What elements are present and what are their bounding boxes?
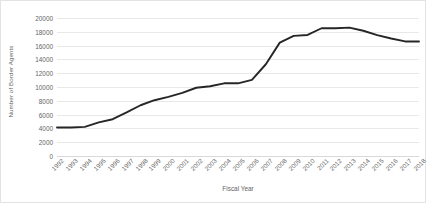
plot-area [57, 18, 419, 156]
x-tick-label: 2012 [329, 157, 344, 172]
y-tick-label: 20000 [35, 15, 53, 22]
x-tick-label: 1993 [64, 157, 79, 172]
x-tick-label: 2001 [175, 157, 190, 172]
y-tick-label: 18000 [35, 28, 53, 35]
border-agents-line [57, 28, 419, 128]
x-tick-label: 2003 [203, 157, 218, 172]
y-tick-label: 6000 [39, 111, 53, 118]
x-tick-label: 2014 [356, 157, 371, 172]
x-tick-label: 1998 [134, 157, 149, 172]
x-tick-label: 2013 [342, 157, 357, 172]
y-tick-label: 14000 [35, 56, 53, 63]
x-tick-label: 2004 [217, 157, 232, 172]
x-tick-label: 2006 [245, 157, 260, 172]
x-tick-label: 2010 [301, 157, 316, 172]
y-tick-label: 10000 [35, 84, 53, 91]
y-tick-label: 4000 [39, 125, 53, 132]
y-axis-title-label: Number of Border Agents [7, 45, 14, 117]
x-axis-tick-labels: 1992199319941995199619971998199920002001… [57, 157, 419, 185]
y-axis-tick-labels: 0200040006000800010000120001400016000180… [17, 18, 55, 156]
x-tick-label: 2007 [259, 157, 274, 172]
x-tick-label: 2005 [231, 157, 246, 172]
y-axis-title: Number of Border Agents [3, 1, 17, 161]
chart-container: Number of Border Agents 0200040006000800… [0, 0, 426, 203]
x-tick-label: 1996 [106, 157, 121, 172]
y-tick-label: 16000 [35, 42, 53, 49]
y-tick-label: 0 [49, 153, 53, 160]
x-tick-label: 2015 [370, 157, 385, 172]
x-tick-label: 2008 [273, 157, 288, 172]
x-tick-label: 1994 [78, 157, 93, 172]
x-tick-label: 2011 [315, 157, 330, 172]
x-tick-label: 2009 [287, 157, 302, 172]
x-tick-label: 2018 [412, 157, 427, 172]
x-tick-label: 2016 [384, 157, 399, 172]
x-axis-title-label: Fiscal Year [222, 185, 253, 192]
x-tick-label: 1997 [120, 157, 135, 172]
x-axis-title: Fiscal Year [57, 185, 419, 192]
y-tick-label: 8000 [39, 97, 53, 104]
x-tick-label: 2000 [161, 157, 176, 172]
y-tick-label: 12000 [35, 70, 53, 77]
line-series [57, 18, 419, 156]
x-tick-label: 1999 [148, 157, 163, 172]
x-tick-label: 2017 [398, 157, 413, 172]
y-tick-label: 2000 [39, 139, 53, 146]
x-tick-label: 2002 [189, 157, 204, 172]
x-tick-label: 1995 [92, 157, 107, 172]
